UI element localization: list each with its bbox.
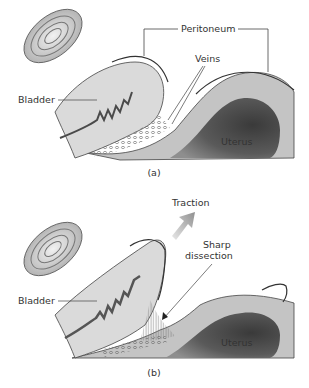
caption-b: (b) (147, 367, 160, 378)
label-sharp: Sharp (203, 239, 231, 250)
label-bladder-b: Bladder (18, 295, 55, 306)
traction-arrow[interactable] (172, 212, 195, 240)
label-uterus-a: Uterus (221, 136, 252, 147)
cross-section-oval-a (14, 0, 92, 73)
label-dissection: dissection (185, 250, 233, 261)
caption-a: (a) (147, 167, 160, 178)
label-peritoneum: Peritoneum (181, 23, 235, 34)
label-bladder-a: Bladder (18, 94, 55, 105)
panel-a: Peritoneum Veins Bladder Uterus (a) (14, 0, 294, 178)
label-veins: Veins (195, 53, 220, 64)
cross-section-oval-b (14, 212, 92, 286)
panel-b: Traction Sharp dissection Bladder Uterus… (14, 197, 294, 378)
diagram-canvas: Peritoneum Veins Bladder Uterus (a) Trac… (0, 0, 309, 388)
label-traction: Traction (171, 197, 210, 208)
label-uterus-b: Uterus (221, 337, 252, 348)
bladder-a (55, 62, 164, 158)
